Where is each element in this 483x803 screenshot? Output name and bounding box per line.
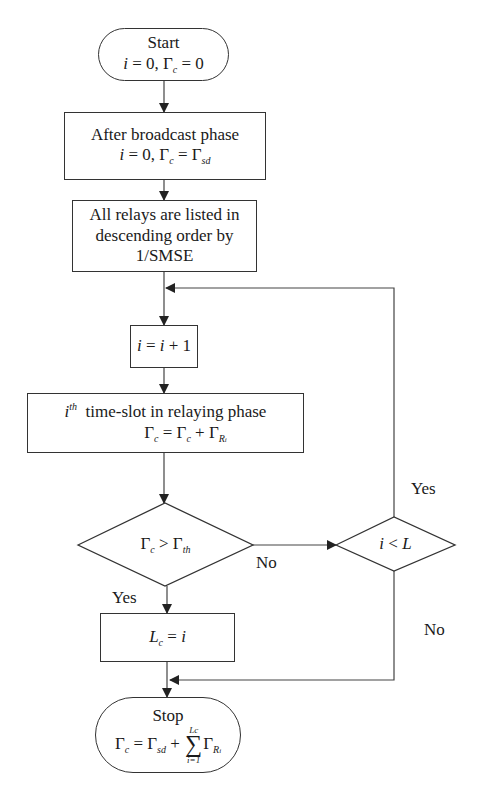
label-count-no: No — [424, 620, 445, 640]
start-title: Start — [147, 33, 179, 53]
stop-formula: Γc = Γsd + Lc∑i=1ΓRi — [115, 726, 221, 764]
sort-relays-box: All relays are listed in descending orde… — [72, 200, 257, 272]
relay-slot-box: ith time-slot in relaying phase Γc = Γc … — [27, 393, 304, 453]
broadcast-phase-box: After broadcast phase i = 0, Γc = Γsd — [64, 112, 266, 180]
summation-symbol: Lc∑i=1 — [185, 726, 202, 764]
start-formula: i = 0, Γc = 0 — [123, 54, 204, 76]
broadcast-title: After broadcast phase — [91, 125, 239, 145]
assign-formula: Lc = i — [149, 627, 186, 649]
label-threshold-no: No — [256, 553, 277, 573]
sort-line-3: 1/SMSE — [136, 246, 194, 266]
decision-threshold-text: Γc > Γth — [141, 534, 191, 555]
increment-formula: i = i + 1 — [137, 336, 191, 356]
sort-line-2: descending order by — [96, 226, 234, 246]
start-terminal: Start i = 0, Γc = 0 — [98, 28, 229, 81]
relay-slot-title: ith time-slot in relaying phase — [65, 401, 267, 422]
increment-box: i = i + 1 — [130, 325, 198, 368]
sort-line-1: All relays are listed in — [89, 205, 239, 225]
assign-box: Lc = i — [100, 613, 235, 662]
stop-terminal: Stop Γc = Γsd + Lc∑i=1ΓRi — [95, 697, 241, 773]
decision-count: i < L — [336, 517, 455, 571]
label-count-yes: Yes — [411, 479, 436, 499]
relay-slot-formula: Γc = Γc + ΓRi — [144, 423, 227, 445]
decision-count-text: i < L — [379, 534, 411, 554]
label-threshold-yes: Yes — [112, 588, 137, 608]
stop-title: Stop — [152, 706, 183, 726]
broadcast-formula: i = 0, Γc = Γsd — [120, 145, 211, 167]
decision-threshold: Γc > Γth — [78, 503, 253, 586]
